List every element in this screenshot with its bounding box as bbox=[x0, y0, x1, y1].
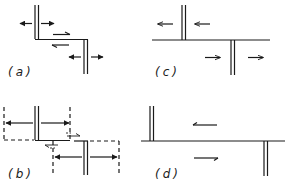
half-arrow-left-icon bbox=[52, 45, 69, 48]
panel-b bbox=[4, 106, 119, 175]
half-arrow-right-icon bbox=[194, 158, 218, 161]
half-arrow-left-icon bbox=[45, 145, 58, 148]
panel-label-b: (b) bbox=[8, 167, 34, 181]
half-arrow-left-icon bbox=[193, 123, 217, 126]
half-arrow-right-icon bbox=[66, 133, 80, 136]
panel-label-a: (a) bbox=[8, 65, 34, 79]
panel-label-c: (c) bbox=[155, 65, 180, 79]
panel-label-d: (d) bbox=[155, 167, 181, 181]
double-bar-lower bbox=[84, 141, 88, 175]
double-bar-upper bbox=[150, 106, 154, 141]
half-arrow-right-icon bbox=[53, 32, 70, 35]
dashed-extent-lower bbox=[53, 141, 119, 175]
double-bar-lower bbox=[231, 40, 235, 75]
double-bar-upper bbox=[35, 5, 39, 39]
panel-a bbox=[20, 5, 103, 74]
diagram-figure: (a) (b) (c) (d) bbox=[0, 0, 285, 188]
panel-d bbox=[141, 106, 285, 176]
double-bar-upper bbox=[35, 106, 39, 140]
double-bar-lower bbox=[264, 141, 268, 176]
diagram-canvas bbox=[0, 0, 285, 188]
double-bar-upper bbox=[182, 5, 186, 40]
double-bar-lower bbox=[84, 40, 88, 75]
